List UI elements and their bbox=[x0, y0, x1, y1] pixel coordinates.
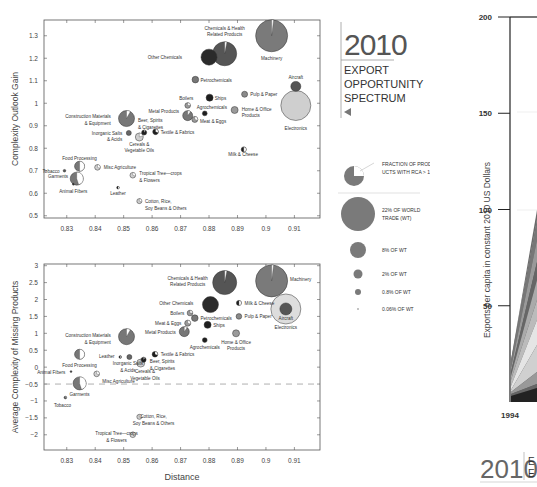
bubble-home-office[interactable] bbox=[233, 330, 240, 337]
bubble-label: Other Chemicals bbox=[148, 55, 183, 60]
bubble-beer-spirits[interactable] bbox=[142, 130, 147, 135]
bubble-aircraft[interactable] bbox=[280, 303, 292, 315]
bubble-label: Electronics bbox=[285, 126, 308, 131]
bubble-misc-agriculture[interactable] bbox=[94, 371, 100, 377]
bubble-label: Cotton, Rice, bbox=[140, 414, 167, 419]
bubble-boilers[interactable] bbox=[185, 103, 191, 109]
bubble-leather[interactable] bbox=[119, 356, 122, 359]
bubble-machinery[interactable] bbox=[256, 20, 288, 52]
bubble-other-chemicals[interactable] bbox=[201, 49, 217, 65]
y-tick-label: 1.2 bbox=[29, 55, 38, 62]
bubble-food-processing[interactable] bbox=[75, 349, 85, 359]
bubble-label: Agrochemicals bbox=[190, 345, 221, 350]
legend-panel: 2010 EXPORT OPPORTUNITY SPECTRUM FRACTIO… bbox=[330, 0, 430, 330]
legend-size-2-icon bbox=[354, 270, 363, 279]
x-tick-label: 0.87 bbox=[174, 225, 187, 232]
y-tick-label: 1 bbox=[34, 330, 38, 337]
bubble-cotton-rice[interactable] bbox=[137, 199, 142, 204]
bubble-animal-fibers[interactable] bbox=[70, 371, 72, 373]
bubble-tobacco[interactable] bbox=[63, 169, 66, 172]
bubble-pulp-paper[interactable] bbox=[236, 314, 242, 320]
x-tick-label: 0.84 bbox=[89, 225, 102, 232]
bubble-metal-products[interactable] bbox=[183, 111, 193, 121]
y-tick-label: 1 bbox=[34, 100, 38, 107]
bubble-label: Animal Fibers bbox=[59, 189, 88, 194]
bubble-construction-materials[interactable] bbox=[119, 111, 135, 127]
bubble-misc-agriculture[interactable] bbox=[95, 165, 101, 171]
y-axis-label: Complexity Outlook Gain bbox=[10, 72, 20, 166]
bubble-garments[interactable] bbox=[73, 377, 86, 390]
bubble-label: Milk & Cheese bbox=[245, 301, 275, 306]
bubble-label: Soy Beans & Others bbox=[133, 421, 175, 426]
bubble-construction-materials[interactable] bbox=[119, 329, 135, 345]
bubble-ships[interactable] bbox=[206, 94, 213, 101]
bubble-label: Beer, Spirits bbox=[150, 359, 175, 364]
bubble-agrochemicals[interactable] bbox=[202, 111, 207, 116]
bubble-ships[interactable] bbox=[204, 321, 211, 328]
bubble-label: Pulp & Paper bbox=[250, 92, 278, 97]
bubble-other-chemicals[interactable] bbox=[202, 297, 218, 313]
x-tick-label: 0.88 bbox=[203, 457, 216, 464]
bubble-textile-fabrics[interactable] bbox=[153, 129, 159, 135]
legend-size-0-06-icon bbox=[357, 308, 359, 310]
area-xtick-1994: 1994 bbox=[501, 411, 519, 420]
bubble-label: Inorganic Salts bbox=[113, 361, 144, 366]
bubble-food-processing[interactable] bbox=[75, 161, 85, 171]
bubble-metal-products[interactable] bbox=[179, 327, 189, 337]
x-tick-label: 0.91 bbox=[288, 225, 301, 232]
bubble-meat-eggs[interactable] bbox=[192, 116, 198, 122]
legend-size-0-8-icon bbox=[355, 289, 361, 295]
bubble-pulp-paper[interactable] bbox=[242, 91, 248, 97]
back-arrow-icon[interactable] bbox=[344, 108, 351, 116]
bubble-label: Garments bbox=[48, 174, 69, 179]
area-y-tick-label: 150 bbox=[479, 109, 493, 118]
y-axis-label: Average Complexity of Missing Products bbox=[10, 281, 20, 433]
y-tick-label: −0.5 bbox=[25, 381, 38, 388]
bubble-label: Products bbox=[227, 346, 246, 351]
bubble-tobacco[interactable] bbox=[64, 396, 67, 399]
bubble-label: Tobacco bbox=[43, 169, 61, 174]
x-tick-label: 0.89 bbox=[231, 225, 244, 232]
x-tick-label: 0.84 bbox=[89, 457, 102, 464]
bubble-label: Inorganic Salts bbox=[92, 131, 123, 136]
bubble-label: Products bbox=[242, 113, 261, 118]
bubble-label: Cereals & bbox=[135, 369, 155, 374]
bubble-inorganic-salts[interactable] bbox=[126, 130, 131, 135]
bubble-label: Cotton, Rice, bbox=[145, 199, 172, 204]
bubble-label: Leather bbox=[110, 191, 126, 196]
header-title-line-3: SPECTRUM bbox=[344, 92, 406, 104]
bubble-label: Food Processing bbox=[62, 363, 97, 368]
y-tick-label: −1.5 bbox=[25, 414, 38, 421]
legend-size-22-label-2: TRADE (WT) bbox=[382, 215, 412, 221]
bubble-label: Misc Agriculture bbox=[102, 379, 135, 384]
bubble-inorganic-salts[interactable] bbox=[127, 355, 132, 360]
bubble-tropical-tree-crops[interactable] bbox=[130, 172, 136, 178]
y-tick-label: 0.7 bbox=[29, 167, 38, 174]
bubble-agrochemicals[interactable] bbox=[202, 338, 207, 343]
x-tick-label: 0.87 bbox=[174, 457, 187, 464]
bubble-label: Misc Agriculture bbox=[104, 165, 137, 170]
bubble-machinery[interactable] bbox=[256, 265, 288, 297]
area-y-tick-label: 200 bbox=[479, 13, 493, 22]
bubble-label: Tobacco bbox=[54, 403, 72, 408]
bubble-textile-fabrics[interactable] bbox=[152, 351, 158, 357]
bubble-milk-cheese[interactable] bbox=[236, 300, 241, 305]
bubble-chemicals-health[interactable] bbox=[213, 271, 237, 295]
bubble-meat-eggs[interactable] bbox=[185, 320, 191, 326]
bubble-label: Construction Materials bbox=[65, 333, 111, 338]
legend-size-0-06-label: 0.06% OF WT bbox=[382, 306, 414, 312]
bubble-petrochemicals[interactable] bbox=[192, 76, 199, 83]
bubble-electronics[interactable] bbox=[281, 91, 311, 121]
x-tick-label: 0.85 bbox=[117, 457, 130, 464]
bubble-home-office[interactable] bbox=[231, 107, 238, 114]
bubble-leather[interactable] bbox=[117, 186, 120, 189]
y-tick-label: 1.5 bbox=[29, 313, 38, 320]
bubble-garments[interactable] bbox=[70, 172, 83, 185]
legend-pie-icon bbox=[344, 163, 374, 186]
bubble-label: & Acids bbox=[120, 368, 136, 373]
y-tick-label: 0.5 bbox=[29, 347, 38, 354]
bubble-petrochemicals[interactable] bbox=[192, 315, 199, 322]
bubble-boilers[interactable] bbox=[187, 310, 193, 316]
bubble-animal-fibers[interactable] bbox=[72, 183, 74, 185]
bubble-aircraft[interactable] bbox=[291, 81, 301, 91]
